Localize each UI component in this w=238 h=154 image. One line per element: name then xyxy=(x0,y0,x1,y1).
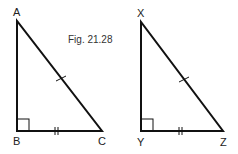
right-angle-marker-y xyxy=(141,119,153,131)
geometry-diagram: A B C Fig. 21.28 X Y Z xyxy=(0,0,238,154)
figure-caption: Fig. 21.28 xyxy=(68,34,113,45)
triangle-xyz-outline xyxy=(141,22,223,131)
triangle-xyz: X Y Z xyxy=(137,7,227,148)
triangle-abc: A B C xyxy=(13,6,106,147)
vertex-label-y: Y xyxy=(137,136,145,148)
right-angle-marker-b xyxy=(17,119,29,131)
vertex-label-a: A xyxy=(13,6,21,18)
vertex-label-c: C xyxy=(98,135,106,147)
vertex-label-x: X xyxy=(137,7,145,19)
vertex-label-b: B xyxy=(13,135,20,147)
vertex-label-z: Z xyxy=(220,136,227,148)
